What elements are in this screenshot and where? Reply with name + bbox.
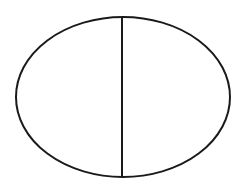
figure-svg: Ellipse divided by a vertical line: [0, 0, 236, 183]
figure-canvas: Ellipse divided by a vertical line: [0, 0, 236, 183]
